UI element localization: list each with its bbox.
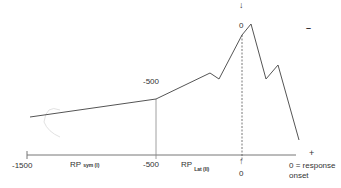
phase-label-rp-lat: RP Lat (II) [181,161,209,169]
upper-minus-500-label: -500 [143,78,159,86]
rp-waveform [30,24,299,140]
phase-label-main: RP [70,160,81,169]
positive-polarity-sign: + [309,149,314,158]
negative-polarity-sign: – [306,24,311,33]
upper-zero-label: 0 [239,22,243,30]
phase-label-main: RP [181,160,192,169]
phase-label-rp-sym: RP sym (I) [70,161,99,169]
phase-label-sub: Lat (II) [194,166,209,172]
response-onset-label-line2: onset [289,172,309,180]
tick-label-minus-1500: -1500 [12,162,32,170]
tick-label-minus-500: -500 [143,161,159,169]
arrow-up-icon: ↑ [239,157,244,166]
rp-diagram-canvas [0,0,341,188]
arrow-down-icon: ↓ [239,1,244,10]
phase-label-sub: sym (I) [83,162,99,168]
tick-label-zero: 0 [239,170,243,178]
response-onset-label: 0 = response [289,162,335,170]
